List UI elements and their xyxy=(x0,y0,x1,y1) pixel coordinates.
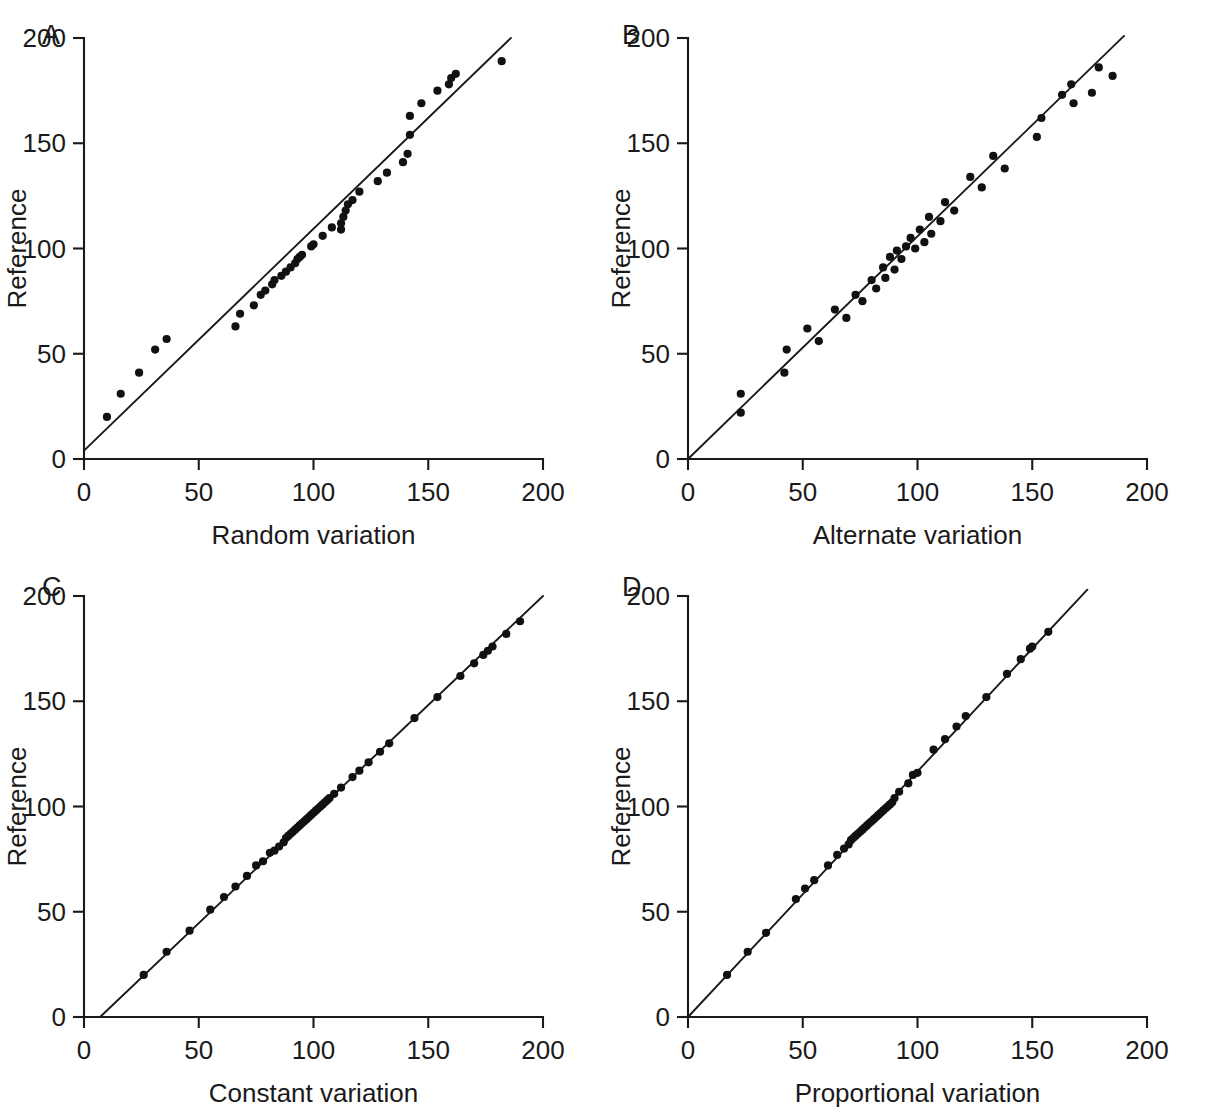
data-point xyxy=(913,769,921,777)
data-point xyxy=(406,131,414,139)
y-axis-tick-label: 0 xyxy=(656,444,670,474)
data-point xyxy=(872,284,880,292)
data-point xyxy=(374,177,382,185)
data-point xyxy=(890,265,898,273)
data-point xyxy=(941,198,949,206)
data-point xyxy=(385,739,393,747)
data-point xyxy=(868,276,876,284)
data-point xyxy=(929,746,937,754)
y-axis-title: Reference xyxy=(606,189,636,309)
data-point xyxy=(1095,63,1103,71)
x-axis-title: Random variation xyxy=(212,520,416,550)
data-point xyxy=(236,310,244,318)
data-point xyxy=(941,735,949,743)
x-axis-title: Constant variation xyxy=(209,1078,419,1108)
data-point xyxy=(364,758,372,766)
x-axis-title: Proportional variation xyxy=(795,1078,1041,1108)
data-point xyxy=(881,274,889,282)
data-point xyxy=(962,712,970,720)
data-point xyxy=(456,672,464,680)
x-axis-tick-label: 100 xyxy=(292,477,335,507)
data-point xyxy=(842,314,850,322)
data-point xyxy=(989,152,997,160)
data-point xyxy=(833,851,841,859)
data-point xyxy=(920,238,928,246)
data-point xyxy=(376,748,384,756)
data-point xyxy=(783,345,791,353)
data-point xyxy=(502,630,510,638)
scatter-plot-b: 050100150200050100150200Alternate variat… xyxy=(604,0,1209,558)
data-point xyxy=(886,253,894,261)
data-point xyxy=(498,57,506,65)
data-point xyxy=(851,291,859,299)
data-point xyxy=(950,207,958,215)
x-axis-tick-label: 50 xyxy=(184,1035,213,1065)
data-point xyxy=(261,287,269,295)
x-axis-tick-label: 0 xyxy=(681,1035,695,1065)
data-point xyxy=(1088,89,1096,97)
x-axis-tick-label: 0 xyxy=(681,477,695,507)
x-axis-tick-label: 100 xyxy=(896,1035,939,1065)
x-axis-tick-label: 150 xyxy=(1011,477,1054,507)
y-axis-tick-label: 150 xyxy=(23,686,66,716)
data-point xyxy=(744,948,752,956)
data-point xyxy=(355,767,363,775)
data-point xyxy=(879,263,887,271)
data-point xyxy=(897,255,905,263)
x-axis-tick-label: 200 xyxy=(521,477,564,507)
data-point xyxy=(978,183,986,191)
y-axis-tick-label: 200 xyxy=(627,23,670,53)
x-axis-tick-label: 150 xyxy=(1011,1035,1054,1065)
data-point xyxy=(163,335,171,343)
data-point xyxy=(1108,72,1116,80)
data-point xyxy=(135,369,143,377)
data-point xyxy=(911,244,919,252)
data-point xyxy=(337,783,345,791)
data-point xyxy=(252,861,260,869)
x-axis-tick-label: 50 xyxy=(788,1035,817,1065)
regression-line xyxy=(84,38,511,451)
data-point xyxy=(259,857,267,865)
data-point xyxy=(399,158,407,166)
panel-b: B 050100150200050100150200Alternate vari… xyxy=(604,0,1209,558)
data-point xyxy=(328,223,336,231)
y-axis-title: Reference xyxy=(2,747,32,867)
data-point xyxy=(815,337,823,345)
data-point xyxy=(319,232,327,240)
x-axis-tick-label: 50 xyxy=(184,477,213,507)
data-point xyxy=(925,213,933,221)
data-point xyxy=(936,217,944,225)
data-point xyxy=(488,642,496,650)
y-axis-tick-label: 50 xyxy=(641,339,670,369)
y-axis-tick-label: 150 xyxy=(23,128,66,158)
data-point xyxy=(810,876,818,884)
data-point xyxy=(893,247,901,255)
x-axis-tick-label: 150 xyxy=(407,477,450,507)
data-point xyxy=(1069,99,1077,107)
data-point xyxy=(406,112,414,120)
y-axis-tick-label: 0 xyxy=(52,1002,66,1032)
y-axis-tick-label: 0 xyxy=(656,1002,670,1032)
data-point xyxy=(927,230,935,238)
y-axis-title: Reference xyxy=(2,189,32,309)
x-axis-tick-label: 200 xyxy=(1125,1035,1168,1065)
data-point xyxy=(151,345,159,353)
data-point xyxy=(1017,655,1025,663)
data-point xyxy=(952,722,960,730)
scatter-plot-c: 050100150200050100150200Constant variati… xyxy=(0,558,604,1117)
data-point xyxy=(723,971,731,979)
data-point-group xyxy=(103,57,506,421)
data-point xyxy=(780,369,788,377)
data-point xyxy=(163,948,171,956)
data-point xyxy=(907,234,915,242)
data-point xyxy=(916,225,924,233)
data-point xyxy=(516,617,524,625)
data-point xyxy=(433,87,441,95)
data-point xyxy=(348,196,356,204)
data-point xyxy=(309,240,317,248)
data-point xyxy=(140,971,148,979)
data-point xyxy=(270,276,278,284)
data-point xyxy=(966,173,974,181)
panel-a: A 050100150200050100150200Random variati… xyxy=(0,0,604,558)
y-axis-tick-label: 200 xyxy=(627,581,670,611)
